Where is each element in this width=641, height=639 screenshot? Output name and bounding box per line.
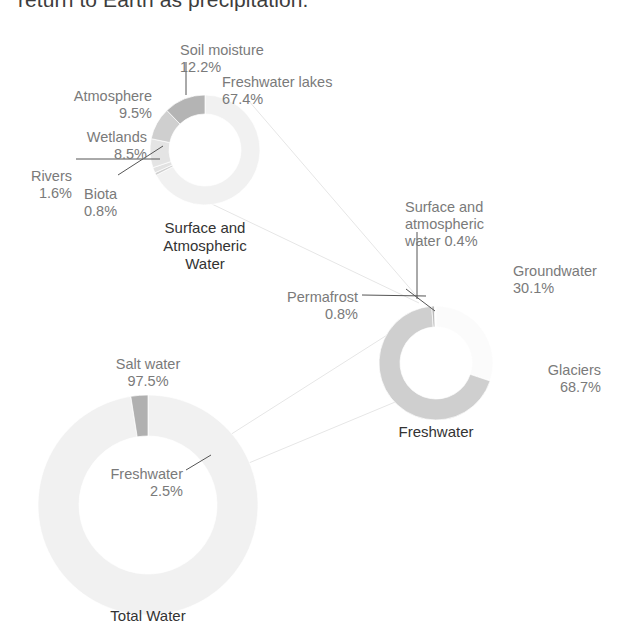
slice-surface-and-atmospheric-water[interactable]	[435, 306, 436, 327]
slice-label-biota: Biota 0.8%	[84, 186, 117, 220]
donut-chart-1	[150, 95, 260, 205]
chart-title-3: Total Water	[38, 607, 258, 625]
slice-label-freshwater-lakes: Freshwater lakes 67.4%	[222, 74, 332, 108]
slice-label-atmosphere: Atmosphere 9.5%	[74, 88, 152, 122]
slice-label-glaciers: Glaciers 68.7%	[548, 362, 601, 396]
slice-label-freshwater: Freshwater 2.5%	[110, 466, 183, 500]
slice-groundwater[interactable]	[436, 306, 493, 381]
slice-label-rivers: Rivers 1.6%	[31, 168, 72, 202]
slice-label-soil-moisture: Soil moisture 12.2%	[180, 42, 264, 76]
surface-atm-tick	[406, 289, 435, 311]
chart-title-1: Surface and Atmospheric Water	[95, 219, 315, 273]
slice-label-permafrost: Permafrost 0.8%	[287, 289, 358, 323]
slice-label-salt-water: Salt water 97.5%	[38, 356, 258, 390]
slice-label-wetlands: Wetlands 8.5%	[87, 129, 147, 163]
infographic-canvas: return to Earth as precipitation. Freshw…	[0, 0, 641, 639]
donut-chart-3	[38, 395, 258, 615]
chart-title-2: Freshwater	[326, 423, 546, 441]
donut-chart-2	[379, 306, 493, 420]
slice-label-surface-and-atmospheric-water-0-4: Surface and atmospheric water 0.4%	[405, 199, 484, 250]
slice-label-groundwater: Groundwater 30.1%	[513, 263, 597, 297]
